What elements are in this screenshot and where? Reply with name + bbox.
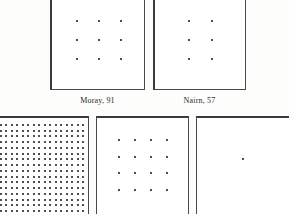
- dot: [55, 199, 57, 201]
- dot: [5, 164, 7, 166]
- dot: [44, 124, 46, 126]
- dot: [55, 164, 57, 166]
- dot: [150, 156, 152, 158]
- dot: [16, 147, 18, 149]
- dot: [71, 210, 73, 212]
- dot: [16, 210, 18, 212]
- dot: [71, 147, 73, 149]
- dot: [27, 164, 29, 166]
- dot: [55, 135, 57, 137]
- dot: [44, 210, 46, 212]
- dot: [44, 130, 46, 132]
- dot: [38, 193, 40, 195]
- dot: [82, 199, 84, 201]
- dot: [60, 204, 62, 206]
- dot: [77, 187, 79, 189]
- dot: [71, 158, 73, 160]
- dot: [33, 147, 35, 149]
- dot: [11, 164, 13, 166]
- dot: [27, 153, 29, 155]
- dot: [22, 158, 24, 160]
- dot: [11, 187, 13, 189]
- dot: [16, 153, 18, 155]
- dot: [16, 164, 18, 166]
- dot: [55, 158, 57, 160]
- dot: [44, 164, 46, 166]
- dot: [11, 135, 13, 137]
- dot: [49, 135, 51, 137]
- dot-grid-nairn: [177, 11, 223, 69]
- dot: [77, 158, 79, 160]
- dot: [0, 147, 2, 149]
- dot: [150, 189, 152, 191]
- panel-nairn: [153, 0, 246, 90]
- dot: [44, 204, 46, 206]
- dot: [11, 141, 13, 143]
- dot: [0, 130, 2, 132]
- dot: [33, 130, 35, 132]
- dot: [60, 164, 62, 166]
- dot: [49, 187, 51, 189]
- dot: [49, 204, 51, 206]
- dot: [49, 124, 51, 126]
- dot: [0, 141, 2, 143]
- dot: [16, 199, 18, 201]
- dot: [38, 176, 40, 178]
- dot: [44, 147, 46, 149]
- dot: [77, 135, 79, 137]
- dot: [22, 176, 24, 178]
- dot: [44, 170, 46, 172]
- dot: [66, 204, 68, 206]
- dot: [66, 187, 68, 189]
- dot: [38, 199, 40, 201]
- dot: [0, 176, 2, 178]
- dot: [16, 176, 18, 178]
- dot: [33, 164, 35, 166]
- dot: [22, 170, 24, 172]
- dot: [150, 139, 152, 141]
- dot: [33, 204, 35, 206]
- dot: [71, 141, 73, 143]
- dot: [82, 141, 84, 143]
- dot: [5, 153, 7, 155]
- caption-moray: Moray, 91: [50, 96, 145, 105]
- dot: [77, 164, 79, 166]
- dot: [55, 153, 57, 155]
- dot: [77, 193, 79, 195]
- dot: [5, 124, 7, 126]
- panel-moray: [50, 0, 145, 90]
- dot: [5, 199, 7, 201]
- dot: [11, 130, 13, 132]
- dot: [5, 135, 7, 137]
- dot: [27, 141, 29, 143]
- dot: [11, 158, 13, 160]
- dot: [82, 135, 84, 137]
- dot: [44, 135, 46, 137]
- dot: [27, 187, 29, 189]
- dot: [82, 181, 84, 183]
- dot: [66, 147, 68, 149]
- dot: [5, 193, 7, 195]
- dot: [16, 187, 18, 189]
- dot: [66, 193, 68, 195]
- dot: [27, 204, 29, 206]
- dot: [211, 39, 213, 41]
- dot: [22, 181, 24, 183]
- dot: [33, 187, 35, 189]
- dot: [22, 147, 24, 149]
- dot: [22, 193, 24, 195]
- dot: [120, 58, 122, 60]
- dot: [44, 158, 46, 160]
- dot: [134, 172, 136, 174]
- dot: [82, 187, 84, 189]
- dot: [211, 20, 213, 22]
- dot: [33, 135, 35, 137]
- dot: [0, 124, 2, 126]
- dot: [55, 147, 57, 149]
- dot: [55, 193, 57, 195]
- dot: [66, 176, 68, 178]
- dot: [22, 199, 24, 201]
- dot: [16, 193, 18, 195]
- dot: [188, 39, 190, 41]
- dot: [22, 141, 24, 143]
